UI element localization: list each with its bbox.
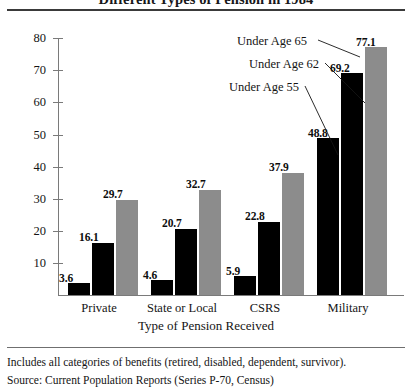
chart-title: Different Types of Pension in 1984 [0,0,412,8]
bar-state-under-62 [175,229,197,295]
y-tick-label-60: 60 [0,97,46,107]
value-label-csrs-under-65: 37.9 [269,161,289,173]
bar-military-under-55 [317,138,339,295]
bar-state-under-65 [199,190,221,295]
value-label-military-under-62: 69.2 [330,62,350,74]
x-tick-label-military: Military [305,301,391,316]
value-label-private-under-55: 3.6 [59,272,73,284]
source-text: Source: Current Population Reports (Seri… [7,374,274,386]
bar-csrs-under-65 [282,173,304,295]
x-axis-line [58,295,404,296]
value-label-csrs-under-62: 22.8 [245,210,265,222]
bar-private-under-65 [116,200,138,295]
x-axis-title: Type of Pension Received [0,318,412,334]
value-label-military-under-65: 77.1 [356,36,376,48]
y-tick-label-70: 70 [0,65,46,75]
bar-military-under-65 [365,47,387,295]
value-label-private-under-62: 16.1 [79,231,99,243]
y-tick-label-50: 50 [0,130,46,140]
x-tick-label-csrs: CSRS [223,301,307,316]
footnote-text: Includes all categories of benefits (ret… [7,356,346,368]
y-tick-label-10: 10 [0,258,46,268]
value-label-state-under-65: 32.7 [186,178,206,190]
bars-layer [58,38,404,295]
y-tick-label-20: 20 [0,226,46,236]
chart-page: Different Types of Pension in 1984 80 70… [0,0,412,390]
bar-state-under-55 [151,280,173,295]
value-label-state-under-62: 20.7 [162,217,182,229]
value-label-csrs-under-55: 5.9 [226,265,240,277]
value-label-state-under-55: 4.6 [143,269,157,281]
bar-private-under-62 [92,243,114,295]
y-tick-label-30: 30 [0,194,46,204]
annotation-under-age-65: Under Age 65 [237,34,307,49]
bar-csrs-under-62 [258,222,280,295]
x-tick-label-state: State or Local [139,301,225,316]
y-tick-label-80: 80 [0,33,46,43]
bar-private-under-55 [68,283,90,295]
annotation-under-age-55: Under Age 55 [229,80,299,95]
value-label-military-under-55: 48.8 [308,127,328,139]
bottom-divider [7,347,405,348]
y-tick-label-40: 40 [0,162,46,172]
bar-military-under-62 [341,73,363,295]
top-divider [7,9,405,11]
x-tick-label-private: Private [58,301,140,316]
value-label-private-under-65: 29.7 [103,188,123,200]
bar-csrs-under-55 [234,276,256,295]
annotation-under-age-62: Under Age 62 [249,57,319,72]
